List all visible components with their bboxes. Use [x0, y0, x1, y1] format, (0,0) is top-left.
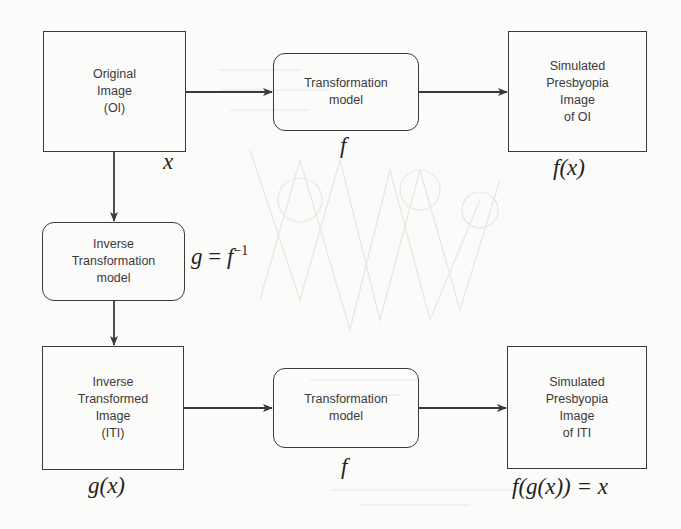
- node-label: Transformation model: [304, 75, 388, 109]
- node-inverse-transformation-model: Inverse Transformation model: [42, 222, 185, 301]
- node-label: Simulated Presbyopia Image of ITI: [546, 374, 609, 442]
- math-label-g-equals-f-inverse: g = f−1: [191, 244, 248, 268]
- node-label: Original Image (OI): [93, 66, 136, 117]
- node-original-image: Original Image (OI): [43, 31, 186, 152]
- node-label: Inverse Transformation model: [72, 236, 156, 287]
- node-inverse-transformed-image: Inverse Transformed Image (ITI): [42, 346, 184, 470]
- node-transformation-model-bottom: Transformation model: [273, 368, 419, 448]
- node-simulated-presbyopia-oi: Simulated Presbyopia Image of OI: [508, 31, 647, 152]
- math-label-x: x: [163, 150, 173, 173]
- math-label-gx: g(x): [88, 474, 125, 497]
- math-label-f-bottom: f: [341, 455, 347, 478]
- node-label: Simulated Presbyopia Image of OI: [546, 58, 609, 126]
- math-label-f-top: f: [340, 134, 346, 157]
- node-label: Transformation model: [304, 391, 388, 425]
- node-simulated-presbyopia-iti: Simulated Presbyopia Image of ITI: [507, 346, 647, 469]
- math-label-fx: f(x): [553, 156, 585, 179]
- node-label: Inverse Transformed Image (ITI): [78, 374, 148, 442]
- node-transformation-model-top: Transformation model: [273, 53, 419, 131]
- math-label-fgx-equals-x: f(g(x)) = x: [512, 475, 608, 498]
